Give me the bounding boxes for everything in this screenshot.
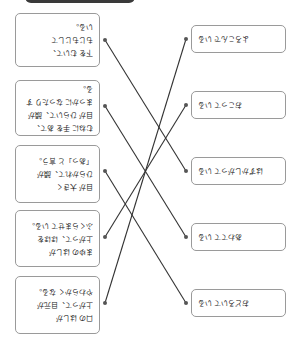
connection-lines: [0, 0, 306, 347]
left-dot[interactable]: [103, 104, 107, 108]
right-dot[interactable]: [184, 37, 188, 41]
left-dot[interactable]: [103, 38, 107, 42]
left-dot[interactable]: [103, 301, 107, 305]
right-dot[interactable]: [184, 103, 188, 107]
connection-line[interactable]: [105, 40, 186, 171]
connection-line[interactable]: [105, 39, 186, 303]
left-dot[interactable]: [103, 235, 107, 239]
left-dot[interactable]: [103, 169, 107, 173]
right-dot[interactable]: [184, 301, 188, 305]
right-dot[interactable]: [184, 235, 188, 239]
right-dot[interactable]: [184, 169, 188, 173]
connection-line[interactable]: [105, 171, 186, 303]
